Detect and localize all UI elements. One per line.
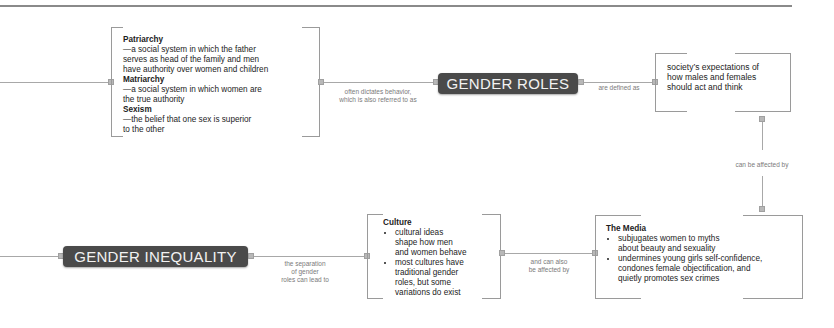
bracket-gap <box>641 214 743 217</box>
media-bullet: undermines young girls self-confidence, … <box>618 254 806 284</box>
expectations-text: society’s expectations of how males and … <box>667 62 791 92</box>
definition-matriarchy-line: —a social system in which women are <box>123 85 313 95</box>
definitions-box-left-bracket <box>111 27 123 137</box>
bullet-line: about beauty and sexuality <box>618 244 806 254</box>
culture-bullet: cultural ideas shape how men and women b… <box>395 228 503 258</box>
media-bullet: subjugates women to myths about beauty a… <box>618 234 806 254</box>
bullet-line: subjugates women to myths <box>618 234 806 244</box>
bracket-gap <box>687 52 735 55</box>
expectations-line: society’s expectations of <box>667 62 791 72</box>
gender-inequality-node[interactable]: GENDER INEQUALITY <box>63 246 248 267</box>
top-divider-rule <box>0 5 792 7</box>
bullet-line: traditional gender <box>395 268 503 278</box>
label-line: which is also referred to as <box>328 96 428 104</box>
label-line: and can also <box>508 258 590 266</box>
connector-label-defined-as: are defined as <box>586 84 652 92</box>
definition-patriarchy-line: —a social system in which the father <box>123 45 313 55</box>
term-patriarchy: Patriarchy <box>123 35 313 45</box>
label-line: be affected by <box>508 266 590 274</box>
connector-node[interactable] <box>759 206 765 212</box>
connector-expectations-to-media <box>762 122 763 150</box>
bullet-line: condones female objectification, and <box>618 264 806 274</box>
label-line: the separation <box>270 260 340 268</box>
label-line: often dictates behavior, <box>328 88 428 96</box>
expectations-line: how males and females <box>667 72 791 82</box>
media-title: The Media <box>606 224 806 234</box>
connector-inequality-to-culture <box>254 256 364 257</box>
culture-box-left-bracket <box>367 214 383 299</box>
media-box: The Media subjugates women to myths abou… <box>606 224 806 284</box>
label-line: of gender <box>270 268 340 276</box>
bullet-line: most cultures have <box>395 258 503 268</box>
connector-definitions-to-gender-roles <box>324 82 434 83</box>
culture-bullet: most cultures have traditional gender ro… <box>395 258 503 298</box>
culture-title: Culture <box>383 218 503 228</box>
connector-culture-to-media <box>505 253 593 254</box>
term-matriarchy: Matriarchy <box>123 75 313 85</box>
bullet-line: shape how men <box>395 238 503 248</box>
bracket-gap <box>687 111 735 114</box>
connector-label-also-affected: and can also be affected by <box>508 258 590 274</box>
bullet-line: undermines young girls self-confidence, <box>618 254 806 264</box>
bullet-line: quietly promotes sex crimes <box>618 274 806 284</box>
connector-label-separation: the separation of gender roles can lead … <box>270 260 340 284</box>
definition-patriarchy-line: have authority over women and children <box>123 65 313 75</box>
bullet-line: variations do exist <box>395 288 503 298</box>
term-sexism: Sexism <box>123 105 313 115</box>
bullet-line: roles, but some <box>395 278 503 288</box>
label-line: roles can lead to <box>270 276 340 284</box>
definition-matriarchy-line: the true authority <box>123 95 313 105</box>
connector-left-to-definitions <box>0 82 108 83</box>
connector-gender-roles-to-expectations <box>584 82 652 83</box>
gender-roles-node[interactable]: GENDER ROLES <box>438 73 578 94</box>
definitions-box: Patriarchy —a social system in which the… <box>123 35 313 135</box>
expectations-line: should act and think <box>667 82 791 92</box>
connector-left-to-gender-inequality <box>0 256 58 257</box>
bullet-line: cultural ideas <box>395 228 503 238</box>
bullet-line: and women behave <box>395 248 503 258</box>
connector-label-affected-by: can be affected by <box>722 161 802 169</box>
definition-sexism-line: —the belief that one sex is superior <box>123 115 313 125</box>
bracket-gap <box>641 298 743 301</box>
definition-sexism-line: to the other <box>123 125 313 135</box>
connector-expectations-to-media <box>762 176 763 206</box>
culture-box: Culture cultural ideas shape how men and… <box>383 218 503 298</box>
definition-patriarchy-line: serves as head of the family and men <box>123 55 313 65</box>
connector-label-dictates: often dictates behavior, which is also r… <box>328 88 428 104</box>
